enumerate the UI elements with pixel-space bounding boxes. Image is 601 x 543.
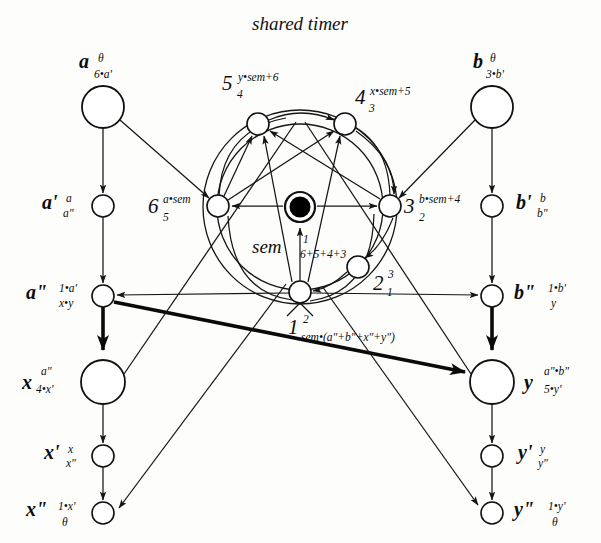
place-4[interactable] (334, 113, 356, 135)
label-place-x-prime-sup: x (67, 443, 74, 455)
label-place-5-name: 5 (222, 71, 233, 95)
label-place-5-sup: y•sem+6 (237, 71, 279, 84)
label-place-x-sub: 4•x' (36, 383, 54, 395)
label-place-a-name: a (79, 50, 89, 72)
place-a-prime[interactable] (92, 195, 114, 217)
label-place-5-sub: 4 (237, 88, 243, 100)
edge-ring-to-ydprime (322, 286, 478, 505)
label-place-x-prime-sub: x" (65, 457, 76, 469)
label-place-3-name: 3 (403, 194, 415, 218)
place-y-double-prime[interactable] (481, 502, 503, 524)
label-place-sem-sup: 1 (303, 233, 309, 245)
place-5[interactable] (247, 113, 269, 135)
label-place-y-prime-sup: y (539, 443, 546, 456)
label-place-b-sub: 3•b' (485, 68, 505, 80)
label-place-b-double-prime-name: b" (514, 281, 535, 303)
place-1[interactable] (289, 281, 311, 303)
label-place-y-prime-name: y' (516, 441, 533, 464)
label-place-a-double-prime-sub: x•y (58, 297, 74, 310)
label-place-2-name: 2 (373, 271, 384, 295)
label-place-y-double-prime-sub: θ (552, 516, 558, 528)
edge-b-to-n3 (399, 120, 475, 198)
place-2[interactable] (347, 256, 369, 278)
label-place-a-prime-sup: a (66, 192, 72, 204)
label-place-sem-sub: 6+5+4+3 (300, 248, 347, 260)
label-place-6-sub: 5 (163, 211, 169, 223)
label-place-y-name: y (522, 371, 533, 394)
label-place-3-sub: 2 (419, 211, 425, 223)
place-a[interactable] (82, 86, 124, 128)
place-y-prime[interactable] (481, 445, 503, 467)
place-6[interactable] (207, 195, 229, 217)
label-place-b-sup: θ (490, 52, 496, 64)
place-y[interactable] (470, 360, 514, 404)
place-b[interactable] (471, 86, 513, 128)
label-place-1-sub: sem•(a"+b"+x"+y") (301, 331, 395, 344)
label-place-4-sup: x•sem+5 (369, 85, 411, 97)
edge-n4-to-n3 (356, 131, 394, 194)
edge-a-to-n6 (120, 120, 209, 198)
label-place-b-prime-name: b' (516, 191, 532, 213)
label-place-x-name: x (21, 371, 32, 393)
label-place-a-sup: θ (98, 52, 104, 64)
diagram-canvas: shared timer (0, 0, 601, 543)
label-place-6-sup: a•sem (163, 193, 191, 205)
label-place-2-sub: 1 (387, 286, 393, 298)
label-place-sem-name: sem (252, 236, 282, 257)
label-place-a-prime-name: a' (42, 191, 58, 213)
label-place-4-sub: 3 (368, 102, 375, 114)
label-place-b-prime-sup: b (540, 192, 546, 204)
label-place-y-double-prime-name: y" (512, 498, 534, 521)
label-place-y-double-prime-sup: 1•y' (548, 500, 566, 513)
label-place-x-double-prime-sub: θ (62, 516, 68, 528)
label-place-b-prime-sub: b" (537, 207, 548, 219)
place-b-prime[interactable] (481, 195, 503, 217)
label-place-x-double-prime-sup: 1•x' (58, 500, 76, 512)
token-sem (290, 197, 311, 218)
place-x[interactable] (81, 360, 125, 404)
label-place-y-prime-sub: y" (537, 457, 548, 470)
edge-ring-to-xdprime (119, 284, 286, 508)
label-place-y-sup: a"•b" (544, 365, 569, 377)
place-b-double-prime[interactable] (481, 285, 503, 307)
edge-n3-to-n5 (270, 131, 380, 199)
page-title: shared timer (252, 13, 348, 34)
label-place-b-double-prime-sub: y (550, 297, 557, 310)
label-place-x-double-prime-name: x" (25, 498, 47, 520)
label-place-3-sup: b•sem+4 (419, 193, 460, 205)
label-place-b-double-prime-sup: 1•b' (548, 282, 567, 294)
label-place-2-sup: 3 (387, 268, 394, 280)
label-place-1-name: 1 (288, 315, 299, 339)
label-place-b-name: b (473, 50, 483, 72)
edge-n1-to-adprime (117, 293, 289, 295)
label-place-1-sup: 2 (303, 313, 309, 325)
label-place-6-name: 6 (148, 194, 159, 218)
label-place-y-sub: 5•y' (544, 383, 562, 396)
label-place-x-sup: a" (41, 365, 52, 377)
place-a-double-prime[interactable] (92, 285, 114, 307)
petri-net-diagram: shared timer (0, 0, 601, 543)
label-place-a-sub: 6•a' (94, 68, 113, 80)
label-place-a-prime-sub: a" (63, 207, 74, 219)
label-place-a-double-prime-name: a" (26, 281, 47, 303)
edge-curve-n6-n1-left (228, 216, 292, 300)
label-place-4-name: 4 (355, 85, 366, 109)
place-x-prime[interactable] (92, 445, 114, 467)
label-place-x-prime-name: x' (43, 441, 60, 463)
label-place-a-double-prime-sup: 1•a' (59, 282, 78, 294)
place-x-double-prime[interactable] (92, 502, 114, 524)
place-3[interactable] (379, 195, 401, 217)
